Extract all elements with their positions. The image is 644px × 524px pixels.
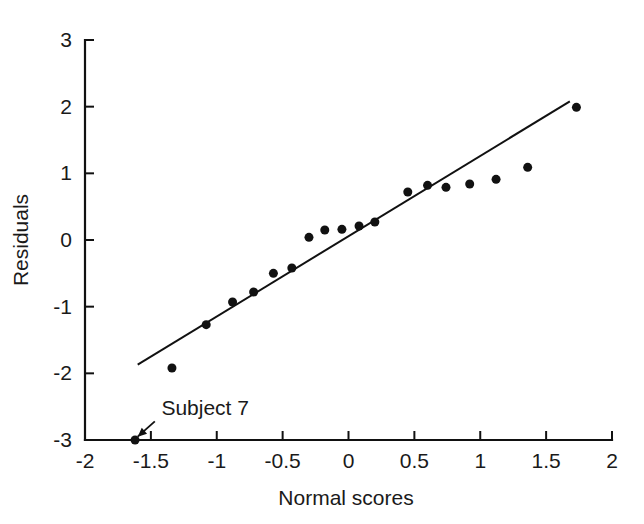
- data-point-8: [320, 226, 329, 235]
- y-axis-tick-labels: -3-2-10123: [53, 28, 72, 451]
- x-tick-label-1: -1.5: [133, 449, 169, 472]
- x-tick-label-5: 0.5: [400, 449, 429, 472]
- y-tick-label-5: 2: [60, 95, 72, 118]
- plot-canvas: -2-1.5-1-0.500.511.52 -3-2-10123 Subject…: [0, 0, 644, 524]
- y-tick-label-6: 3: [60, 28, 72, 51]
- y-tick-label-0: -3: [53, 428, 72, 451]
- data-point-11: [370, 218, 379, 227]
- annotation-label: Subject 7: [161, 396, 249, 419]
- y-tick-label-3: 0: [60, 228, 72, 251]
- data-point-3: [228, 298, 237, 307]
- y-tick-label-4: 1: [60, 161, 72, 184]
- x-tick-label-6: 1: [474, 449, 486, 472]
- x-tick-label-0: -2: [76, 449, 95, 472]
- subject-7-annotation-group: Subject 7: [138, 396, 249, 437]
- qq-plot-figure: -2-1.5-1-0.500.511.52 -3-2-10123 Subject…: [0, 0, 644, 524]
- y-axis-title: Residuals: [9, 194, 32, 286]
- data-point-9: [337, 225, 346, 234]
- scatter-points-group: [131, 103, 581, 445]
- data-point-4: [249, 288, 258, 297]
- x-axis-tick-labels: -2-1.5-1-0.500.511.52: [76, 449, 618, 472]
- x-tick-label-3: -0.5: [265, 449, 301, 472]
- x-tick-label-4: 0: [343, 449, 355, 472]
- x-tick-label-2: -1: [207, 449, 226, 472]
- data-point-14: [441, 183, 450, 192]
- x-tick-label-7: 1.5: [532, 449, 561, 472]
- axis-lines: [85, 40, 612, 440]
- x-axis-ticks: [85, 431, 612, 440]
- data-point-17: [523, 163, 532, 172]
- data-point-15: [465, 180, 474, 189]
- y-axis-ticks: [85, 40, 94, 440]
- data-point-16: [492, 175, 501, 184]
- y-tick-label-2: -1: [53, 295, 72, 318]
- x-axis-title: Normal scores: [278, 486, 413, 509]
- data-point-10: [355, 222, 364, 231]
- data-point-13: [423, 181, 432, 190]
- data-point-2: [202, 320, 211, 329]
- data-point-12: [403, 188, 412, 197]
- data-point-1: [167, 364, 176, 373]
- x-tick-label-8: 2: [606, 449, 618, 472]
- y-tick-label-1: -2: [53, 361, 72, 384]
- data-point-7: [304, 233, 313, 242]
- data-point-6: [287, 264, 296, 273]
- data-point-18: [572, 103, 581, 112]
- data-point-5: [269, 269, 278, 278]
